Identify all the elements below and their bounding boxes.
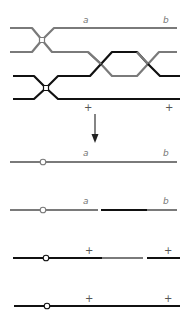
result-row-1: a b xyxy=(10,148,177,165)
result-row-2: a b xyxy=(10,196,177,213)
crossover-node xyxy=(44,86,49,91)
row4-plus-2: + xyxy=(164,293,172,304)
result-row-3: + + xyxy=(13,245,180,261)
row3-plus-2: + xyxy=(164,245,172,256)
plus-marker-top-1: + xyxy=(84,102,92,113)
row1-label-a: a xyxy=(83,148,89,158)
centromere-icon xyxy=(43,255,49,261)
label-a-top: a xyxy=(83,15,89,25)
centromere-icon xyxy=(40,207,46,213)
recombination-diagram: a b + + a b a b + + + + xyxy=(0,0,192,321)
plus-marker-top-2: + xyxy=(165,102,173,113)
centromere-icon xyxy=(40,159,46,165)
row2-label-b: b xyxy=(163,196,169,206)
down-arrow-icon xyxy=(92,114,99,143)
result-row-4: + + xyxy=(14,293,180,309)
row2-label-a: a xyxy=(83,196,89,206)
crossover-node xyxy=(40,38,45,43)
row1-label-b: b xyxy=(163,148,169,158)
label-b-top: b xyxy=(163,15,169,25)
centromere-icon xyxy=(44,303,50,309)
row3-plus-1: + xyxy=(85,245,93,256)
top-panel xyxy=(10,28,180,99)
row4-plus-1: + xyxy=(85,293,93,304)
